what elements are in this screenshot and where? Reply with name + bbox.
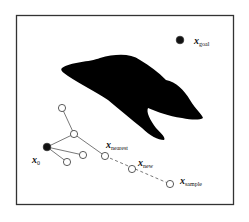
sample-node [166,180,173,187]
start-node [43,143,51,151]
tree-node [70,130,77,137]
goal-node [176,36,184,44]
tree-node [58,104,65,111]
nearest-node [101,152,108,159]
tree-node [79,151,86,158]
tree-node [63,158,70,165]
rrt-diagram: xgoal x0 xnearest xnew xsample [0,0,249,222]
new-node [128,165,135,172]
